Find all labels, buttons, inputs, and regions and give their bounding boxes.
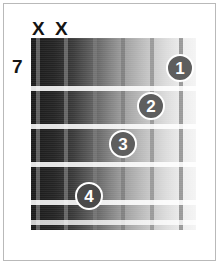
mute-mark-string-1: X (32, 19, 45, 38)
mute-mark-string-2: X (55, 19, 68, 38)
chord-diagram-root: 7 X X 1 2 3 4 (0, 0, 221, 266)
fret-line-2 (31, 124, 196, 129)
finger-dot-1: 1 (166, 54, 194, 82)
fret-line-5 (31, 220, 196, 225)
fret-line-4 (31, 200, 196, 205)
finger-dot-3: 3 (109, 130, 137, 158)
fret-line-1 (31, 86, 196, 91)
fret-line-3 (31, 162, 196, 167)
starting-fret-label: 7 (12, 57, 23, 76)
finger-dot-4: 4 (75, 182, 103, 210)
finger-dot-2: 2 (137, 92, 165, 120)
